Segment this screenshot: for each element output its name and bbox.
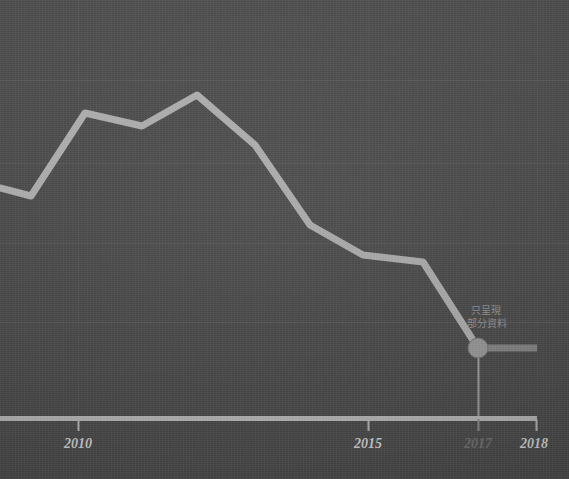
annotation-line-2: 部分資料 [467, 317, 507, 329]
annotation-line-1: 只呈現 [471, 305, 501, 316]
x-tick-label-2010: 2010 [63, 436, 92, 451]
highlight-marker[interactable] [468, 338, 488, 358]
series-main-line [0, 95, 478, 348]
vertical-gridlines [79, 0, 538, 418]
x-tick-label-2018: 2018 [519, 436, 548, 451]
chart-canvas: 2010 2015 2017 2018 只呈現 部分資料 [0, 0, 569, 479]
x-tick-label-2017: 2017 [463, 436, 493, 451]
x-tick-label-2015: 2015 [353, 436, 382, 451]
line-chart: 2010 2015 2017 2018 只呈現 部分資料 [0, 0, 569, 479]
